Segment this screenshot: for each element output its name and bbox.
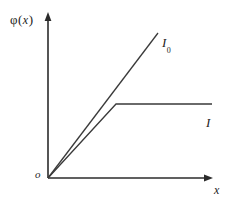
- x-axis-arrow-icon: [204, 175, 213, 182]
- curve-i0-label: I0: [162, 36, 170, 53]
- y-axis-label: φ(x): [10, 13, 34, 26]
- curve-i-label: I: [206, 116, 210, 129]
- x-axis-label: x: [214, 184, 219, 196]
- figure-container: φ(x) x o I0 I: [0, 0, 234, 203]
- phi-symbol: φ: [10, 12, 18, 27]
- curve-i0-label-text: I: [162, 35, 166, 50]
- curve-i: [48, 104, 212, 178]
- close-paren: ): [29, 12, 34, 27]
- y-axis-arrow-icon: [45, 12, 52, 21]
- curve-i0-label-subscript: 0: [167, 46, 171, 55]
- curve-i0: [48, 33, 158, 178]
- origin-label: o: [35, 169, 41, 180]
